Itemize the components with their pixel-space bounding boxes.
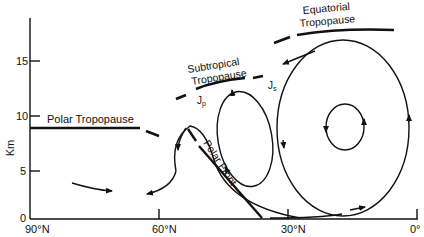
y-tick-10: 10 — [16, 110, 28, 122]
x-tick-30n: 30°N — [281, 223, 306, 235]
jet-subtropical-label: Js — [268, 80, 277, 92]
subtropical-tropopause-line — [176, 95, 186, 99]
x-tick-0: 0° — [410, 223, 421, 235]
polar-flow-arrow — [72, 183, 112, 191]
polar-tropopause-label: Polar Tropopause — [47, 113, 134, 125]
jet-polar-label: Jp — [197, 95, 206, 108]
polar-front-label: Polar Front — [201, 138, 239, 188]
circulation-diagram: 15 10 5 0 Km 90°N 60°N 30°N 0° Polar Tro… — [0, 0, 424, 237]
equatorial-tropopause-line — [274, 37, 290, 43]
y-tick-5: 5 — [20, 165, 26, 177]
hadley-cell-loop — [277, 40, 409, 216]
x-tick-90n: 90°N — [25, 223, 50, 235]
inner-cell-loop — [326, 104, 364, 150]
y-tick-15: 15 — [16, 55, 28, 67]
x-tick-60n: 60°N — [152, 223, 177, 235]
y-axis-label: Km — [4, 140, 16, 157]
ferrel-loop — [175, 126, 300, 218]
